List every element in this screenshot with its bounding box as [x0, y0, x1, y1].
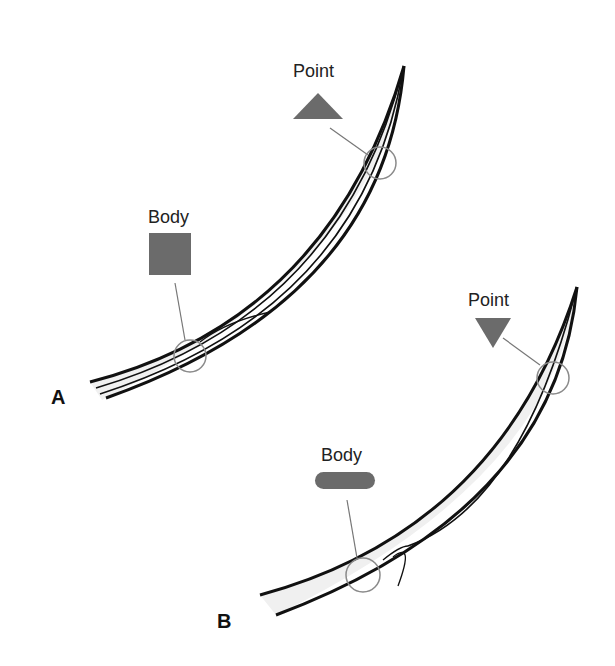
leader-line-b-body — [347, 500, 357, 558]
leader-line-b-point — [503, 338, 540, 365]
panel-letter-b: B — [217, 611, 231, 631]
needle-diagram — [0, 0, 615, 666]
body-label-b: Body — [321, 446, 362, 464]
leader-line-a-body — [175, 283, 185, 340]
body-label-a: Body — [148, 208, 189, 226]
panel-letter-a: A — [51, 387, 65, 407]
point-triangle-up-icon — [293, 93, 343, 119]
panel-b-needle — [260, 287, 577, 615]
leader-line-a-point — [330, 128, 368, 155]
point-label-a: Point — [293, 62, 334, 80]
body-square-icon — [149, 233, 191, 275]
point-label-b: Point — [468, 291, 509, 309]
body-bar-icon — [315, 472, 375, 489]
point-triangle-down-icon — [475, 318, 511, 348]
panel-a-needle — [90, 66, 404, 400]
